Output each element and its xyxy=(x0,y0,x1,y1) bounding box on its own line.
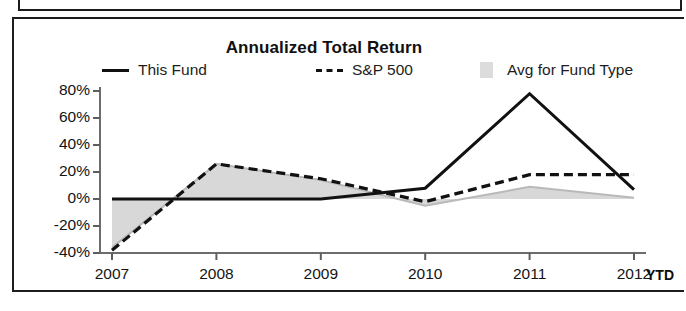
y-tick-label: 0% xyxy=(28,189,90,207)
x-tick-label: 2008 xyxy=(176,265,256,283)
x-tick-label: 2009 xyxy=(281,265,361,283)
x-tick-label: 2010 xyxy=(385,265,465,283)
chart-svg xyxy=(14,19,686,294)
x-tick-label: 2011 xyxy=(490,265,570,283)
y-tick-label: 60% xyxy=(28,108,90,126)
chart-series xyxy=(112,94,634,251)
annualized-total-return-panel: Annualized Total Return This Fund S&P 50… xyxy=(12,17,684,292)
y-tick-label: 20% xyxy=(28,162,90,180)
x-tick-label: 2007 xyxy=(72,265,152,283)
y-tick-label: -20% xyxy=(28,216,90,234)
y-tick-label: 80% xyxy=(28,81,90,99)
x-axis-ytd-note: YTD xyxy=(646,267,674,283)
plot-area: 80%60%40%20%0%-20%-40% 20072008200920102… xyxy=(14,19,686,294)
upper-panel-edge xyxy=(18,0,682,11)
y-tick-label: 40% xyxy=(28,135,90,153)
y-tick-label: -40% xyxy=(28,243,90,261)
chart-axes xyxy=(93,87,646,260)
